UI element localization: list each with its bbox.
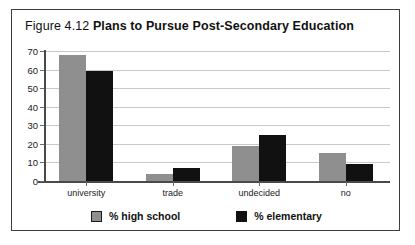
- bar-group: [146, 51, 200, 181]
- y-axis-tick-labels: 010203040506070: [12, 51, 38, 181]
- y-axis-tick-label: 70: [14, 46, 38, 57]
- bar: [173, 168, 200, 181]
- legend-label: % elementary: [254, 210, 322, 222]
- y-axis-tick-mark: [40, 70, 44, 71]
- y-axis-tick-label: 10: [14, 157, 38, 168]
- legend-item: % high school: [91, 210, 180, 222]
- chart-legend: % high school% elementary: [12, 210, 401, 222]
- legend-item: % elementary: [236, 210, 322, 222]
- bar: [59, 55, 86, 181]
- y-axis-tick-label: 60: [14, 64, 38, 75]
- bar-group: [59, 51, 113, 181]
- y-axis-tick-mark: [40, 181, 44, 182]
- y-axis-tick-mark: [40, 88, 44, 89]
- y-axis-tick-label: 40: [14, 101, 38, 112]
- y-axis-tick-label: 50: [14, 83, 38, 94]
- x-axis-tick-mark: [86, 182, 87, 186]
- figure-name: Plans to Pursue Post-Secondary Education: [93, 19, 354, 33]
- legend-swatch: [236, 211, 247, 222]
- x-axis-tick-label: trade: [162, 188, 183, 198]
- y-axis-line: [44, 50, 46, 182]
- y-axis-tick-label: 0: [14, 176, 38, 187]
- bar: [86, 71, 113, 181]
- figure-frame: Figure 4.12 Plans to Pursue Post-Seconda…: [11, 9, 400, 231]
- x-axis-line: [38, 181, 390, 183]
- legend-swatch: [91, 211, 102, 222]
- y-axis-tick-label: 20: [14, 138, 38, 149]
- figure-title: Figure 4.12 Plans to Pursue Post-Seconda…: [25, 19, 354, 33]
- bar: [259, 135, 286, 181]
- plot-area: [44, 51, 390, 181]
- bar-group: [319, 51, 373, 181]
- legend-label: % high school: [109, 210, 180, 222]
- bar: [232, 146, 259, 181]
- bar: [346, 164, 373, 181]
- x-axis-tick-mark: [173, 182, 174, 186]
- y-axis-tick-mark: [40, 125, 44, 126]
- x-axis-tick-label: no: [341, 188, 351, 198]
- y-axis-tick-mark: [40, 51, 44, 52]
- y-axis-tick-mark: [40, 107, 44, 108]
- x-axis-tick-label: university: [67, 188, 105, 198]
- y-axis-tick-label: 30: [14, 120, 38, 131]
- y-axis-tick-mark: [40, 162, 44, 163]
- bar: [319, 153, 346, 181]
- bar-group: [232, 51, 286, 181]
- figure-number: Figure 4.12: [25, 19, 89, 33]
- x-axis-tick-label: undecided: [238, 188, 280, 198]
- y-axis-tick-mark: [40, 144, 44, 145]
- x-axis-tick-mark: [346, 182, 347, 186]
- bar: [146, 174, 173, 181]
- x-axis-tick-mark: [259, 182, 260, 186]
